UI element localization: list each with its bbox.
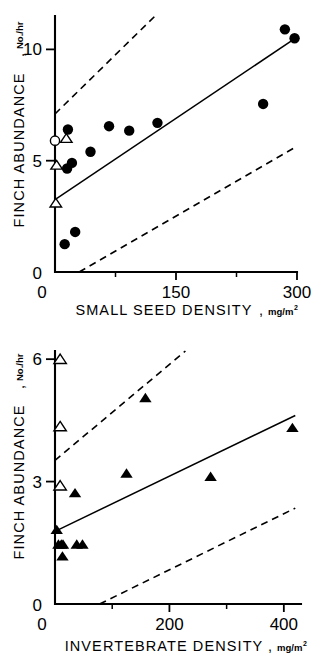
y-axis-title-group: FINCH ABUNDANCE , No./hr <box>11 353 27 559</box>
data-point-filled-triangle <box>51 525 63 534</box>
data-point-filled-circle <box>59 239 69 249</box>
x-axis-title-separator: , <box>268 638 272 654</box>
data-point-filled-triangle <box>120 468 132 477</box>
confidence-bands <box>55 16 297 272</box>
plot-axes <box>55 16 297 272</box>
x-tick-label: 150 <box>162 283 190 302</box>
data-point-filled-circle <box>289 33 299 43</box>
x-axis-unit-exponent: 2 <box>294 304 298 311</box>
y-axis-unit: No./hr <box>14 21 25 49</box>
regression-line <box>55 37 297 200</box>
data-point-filled-triangle <box>204 472 216 481</box>
data-point-filled-circle <box>124 125 134 135</box>
x-axis-unit-exponent: 2 <box>303 640 307 647</box>
figure-container: 5100 1503000 FINCH ABUNDANCE , No./hr SM… <box>0 0 319 658</box>
y-axis-tick-labels: 360 <box>33 350 42 615</box>
y-axis-title-separator: , <box>11 385 27 389</box>
data-point-open-circle <box>50 136 59 145</box>
data-point-filled-circle <box>85 147 95 157</box>
x-axis-title-group: INVERTEBRATE DENSITY , mg/m 2 <box>65 638 307 654</box>
small-seed-density-panel: 5100 1503000 FINCH ABUNDANCE , No./hr SM… <box>0 0 319 330</box>
data-point-open-triangle <box>50 198 61 207</box>
data-point-filled-circle <box>258 99 268 109</box>
data-point-filled-triangle <box>69 488 81 497</box>
y-axis-unit: No./hr <box>14 353 25 381</box>
regression-line <box>55 37 297 200</box>
data-point-filled-circle <box>70 227 80 237</box>
x-tick-label: 300 <box>283 283 311 302</box>
lower-confidence-band <box>100 508 296 604</box>
y-tick-label: 3 <box>33 473 42 492</box>
x-axis-tick-labels: 1503000 <box>37 283 311 302</box>
data-point-filled-triangle <box>286 423 298 432</box>
x-axis-title: SMALL SEED DENSITY <box>75 302 252 318</box>
data-point-filled-circle <box>67 158 77 168</box>
x-origin-label: 0 <box>37 283 46 302</box>
x-axis-title: INVERTEBRATE DENSITY <box>65 638 264 654</box>
x-tick-label: 400 <box>270 615 298 634</box>
data-point-open-triangle <box>51 160 62 169</box>
data-point-filled-circle <box>63 124 73 134</box>
x-axis-unit: mg/m <box>268 306 293 317</box>
data-points <box>51 354 299 560</box>
x-axis-title-separator: , <box>259 302 263 318</box>
x-axis-tick-labels: 2004000 <box>37 615 298 634</box>
regression-line <box>55 415 295 531</box>
x-origin-label: 0 <box>37 615 46 634</box>
data-point-filled-triangle <box>56 551 68 560</box>
data-point-filled-triangle <box>139 393 151 402</box>
data-point-filled-circle <box>104 121 114 131</box>
y-origin-label: 0 <box>33 596 42 615</box>
data-point-filled-circle <box>152 118 162 128</box>
x-axis-title-group: SMALL SEED DENSITY , mg/m 2 <box>75 302 298 318</box>
lower-confidence-band <box>79 146 297 272</box>
x-axis-unit: mg/m <box>277 642 302 653</box>
upper-confidence-band <box>55 351 185 460</box>
y-tick-label: 5 <box>33 152 42 171</box>
y-axis-title-separator: , <box>11 53 27 57</box>
y-axis-ticks <box>46 359 55 481</box>
small-seed-density-plot: 5100 1503000 FINCH ABUNDANCE , No./hr SM… <box>0 0 319 330</box>
y-origin-label: 0 <box>33 264 42 283</box>
data-points <box>50 24 300 249</box>
invertebrate-density-panel: 360 2004000 FINCH ABUNDANCE , No./hr INV… <box>0 330 319 658</box>
confidence-bands <box>55 351 295 604</box>
data-point-filled-circle <box>280 24 290 34</box>
invertebrate-density-plot: 360 2004000 FINCH ABUNDANCE , No./hr INV… <box>0 330 319 658</box>
data-point-open-triangle <box>61 134 72 143</box>
y-axis-title: FINCH ABUNDANCE <box>11 72 27 227</box>
y-axis-title: FINCH ABUNDANCE <box>11 404 27 559</box>
y-tick-label: 6 <box>33 350 42 369</box>
x-tick-label: 200 <box>155 615 183 634</box>
upper-confidence-band <box>55 16 155 114</box>
regression-line <box>55 415 295 531</box>
